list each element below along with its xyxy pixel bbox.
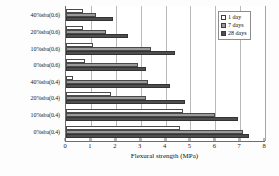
bar-group (66, 57, 265, 74)
x-tick-label: 3 (138, 142, 141, 149)
x-tick-label: 2 (113, 142, 116, 149)
bar-row (66, 51, 265, 55)
x-tick-mark (214, 138, 215, 141)
bar-row (66, 117, 265, 121)
bar (66, 117, 238, 121)
y-axis-label: 10%sba(0.6) (0, 40, 63, 57)
bar-group (66, 107, 265, 124)
legend-swatch (221, 15, 226, 20)
y-axis-label: 40%sba(0.4) (0, 74, 63, 91)
bar (66, 67, 146, 71)
x-tick-mark (89, 138, 90, 141)
x-tick-mark (164, 138, 165, 141)
y-axis-category-labels: 40%sba(0.6)20%sba(0.6)10%sba(0.6)0%sba(0… (0, 6, 63, 141)
bar-group (66, 40, 265, 57)
legend-item: 7 days (221, 22, 247, 29)
bar (66, 34, 128, 38)
bar (66, 84, 170, 88)
x-tick-label: 5 (188, 142, 191, 149)
x-tick-label: 8 (262, 142, 265, 149)
y-axis-label: 20%sba(0.6) (0, 24, 63, 41)
x-tick-mark (264, 138, 265, 141)
bar-row (66, 100, 265, 104)
x-tick-mark (65, 138, 66, 141)
chart-legend: 1 day7 days28 days (218, 11, 251, 40)
x-tick-mark (189, 138, 190, 141)
legend-swatch (221, 23, 226, 28)
legend-label: 28 days (228, 30, 247, 37)
x-tick-label: 0 (63, 142, 66, 149)
x-tick-mark (139, 138, 140, 141)
bar (66, 100, 185, 104)
y-axis-label: 0%sba(0.6) (0, 57, 63, 74)
bar-group (66, 74, 265, 91)
y-axis-label: 0%sba(0.4) (0, 123, 63, 140)
legend-label: 1 day (228, 14, 241, 21)
x-tick-label: 1 (88, 142, 91, 149)
x-tick-label: 6 (213, 142, 216, 149)
x-tick-mark (114, 138, 115, 141)
bar-group (66, 90, 265, 107)
bar (66, 51, 175, 55)
bar-row (66, 134, 265, 138)
gridline (265, 6, 266, 141)
bar-group (66, 123, 265, 140)
legend-swatch (221, 31, 226, 36)
x-axis-ticks: 012345678 (65, 142, 264, 152)
bar-row (66, 84, 265, 88)
bar (66, 134, 249, 138)
legend-item: 28 days (221, 30, 247, 37)
y-axis-label: 40%sba(0.6) (0, 7, 63, 24)
x-tick-label: 4 (163, 142, 166, 149)
y-axis-label: 10%sba(0.4) (0, 107, 63, 124)
x-tick-label: 7 (238, 142, 241, 149)
x-axis-title: Flexural strength (MPa) (65, 152, 264, 160)
bar (66, 17, 113, 21)
y-axis-label: 20%sba(0.4) (0, 90, 63, 107)
flexural-strength-bar-chart: 40%sba(0.6)20%sba(0.6)10%sba(0.6)0%sba(0… (0, 0, 279, 176)
x-tick-mark (239, 138, 240, 141)
bar-row (66, 67, 265, 71)
legend-item: 1 day (221, 14, 247, 21)
legend-label: 7 days (228, 22, 244, 29)
